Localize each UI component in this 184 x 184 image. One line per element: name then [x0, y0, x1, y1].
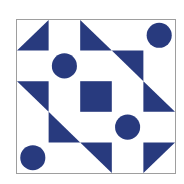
triangle-shape	[80, 20, 112, 51]
triangle-shape	[143, 142, 175, 173]
quilt-pattern	[17, 20, 175, 173]
triangle-shape	[49, 112, 81, 143]
circle-shape	[20, 145, 45, 170]
triangle-shape	[80, 142, 112, 173]
quilt-board	[16, 19, 176, 174]
circle-shape	[147, 23, 172, 48]
circle-shape	[115, 115, 140, 140]
triangle-shape	[143, 81, 175, 112]
circle-shape	[52, 53, 77, 78]
triangle-shape	[112, 51, 144, 82]
triangle-shape	[17, 81, 49, 112]
triangle-shape	[17, 20, 49, 51]
square-shape	[80, 81, 112, 112]
